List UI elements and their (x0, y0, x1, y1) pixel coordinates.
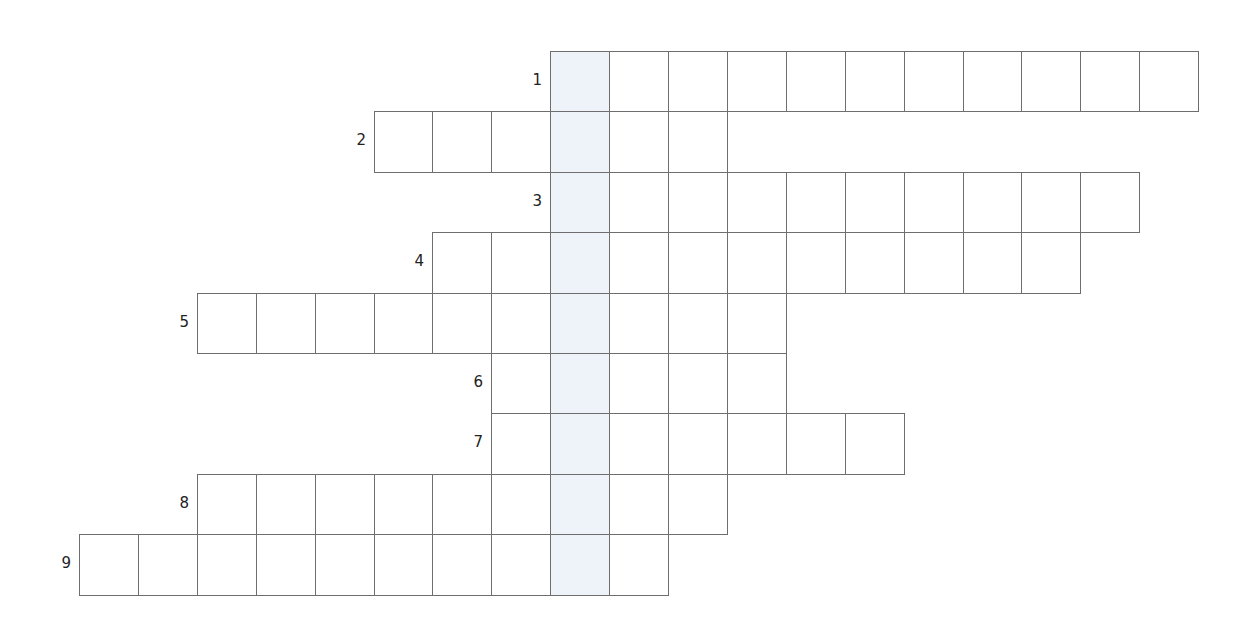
clue-number: 4 (404, 252, 424, 270)
crossword-cell-highlighted[interactable] (550, 111, 610, 173)
crossword-cell[interactable] (668, 172, 728, 233)
crossword-cell[interactable] (491, 474, 551, 535)
crossword-cell[interactable] (138, 534, 198, 596)
crossword-cell[interactable] (786, 232, 846, 294)
crossword-cell[interactable] (374, 474, 433, 535)
crossword-cell[interactable] (727, 51, 787, 112)
crossword-cell[interactable] (432, 474, 492, 535)
crossword-cell[interactable] (904, 172, 964, 233)
crossword-cell[interactable] (197, 474, 257, 535)
crossword-cell-highlighted[interactable] (550, 293, 610, 354)
clue-number: 6 (463, 373, 483, 391)
crossword-cell-highlighted[interactable] (550, 413, 610, 475)
crossword-cell[interactable] (845, 172, 905, 233)
crossword-cell[interactable] (491, 232, 551, 294)
crossword-cell[interactable] (609, 474, 669, 535)
crossword-cell[interactable] (727, 353, 787, 414)
crossword-cell[interactable] (315, 474, 375, 535)
crossword-cell[interactable] (432, 111, 492, 173)
clue-number: 7 (463, 433, 483, 451)
crossword-cell-highlighted[interactable] (550, 474, 610, 535)
crossword-cell-highlighted[interactable] (550, 172, 610, 233)
clue-number: 3 (522, 192, 542, 210)
crossword-cell[interactable] (256, 474, 316, 535)
crossword-cell[interactable] (491, 353, 551, 414)
crossword-cell[interactable] (374, 534, 433, 596)
crossword-cell[interactable] (256, 293, 316, 354)
crossword-cell[interactable] (668, 413, 728, 475)
crossword-cell[interactable] (609, 413, 669, 475)
crossword-cell[interactable] (491, 413, 551, 475)
crossword-cell[interactable] (1080, 51, 1140, 112)
crossword-cell[interactable] (609, 293, 669, 354)
crossword-cell-highlighted[interactable] (550, 232, 610, 294)
crossword-cell[interactable] (845, 232, 905, 294)
crossword-cell-highlighted[interactable] (550, 353, 610, 414)
crossword-cell[interactable] (904, 232, 964, 294)
clue-number: 1 (522, 71, 542, 89)
crossword-cell[interactable] (1080, 172, 1140, 233)
crossword-cell[interactable] (79, 534, 139, 596)
crossword-cell[interactable] (786, 172, 846, 233)
crossword-cell-highlighted[interactable] (550, 534, 610, 596)
crossword-cell[interactable] (609, 51, 669, 112)
crossword-cell[interactable] (668, 111, 728, 173)
crossword-cell[interactable] (668, 474, 728, 535)
crossword-cell[interactable] (315, 534, 375, 596)
crossword-cell[interactable] (904, 51, 964, 112)
crossword-cell[interactable] (1139, 51, 1199, 112)
crossword-cell[interactable] (197, 293, 257, 354)
crossword-cell[interactable] (668, 353, 728, 414)
crossword-cell[interactable] (432, 534, 492, 596)
crossword-cell[interactable] (668, 232, 728, 294)
crossword-cell[interactable] (491, 293, 551, 354)
crossword-cell[interactable] (786, 51, 846, 112)
crossword-cell[interactable] (432, 232, 492, 294)
crossword-cell-highlighted[interactable] (550, 51, 610, 112)
crossword-cell[interactable] (432, 293, 492, 354)
crossword-cell[interactable] (609, 111, 669, 173)
crossword-cell[interactable] (668, 293, 728, 354)
crossword-cell[interactable] (963, 51, 1022, 112)
crossword-cell[interactable] (1021, 172, 1081, 233)
crossword-cell[interactable] (374, 111, 433, 173)
crossword-cell[interactable] (491, 534, 551, 596)
clue-number: 9 (51, 554, 71, 572)
crossword-grid: 123456789 (0, 0, 1250, 630)
crossword-cell[interactable] (609, 353, 669, 414)
crossword-cell[interactable] (609, 534, 669, 596)
crossword-cell[interactable] (491, 111, 551, 173)
crossword-cell[interactable] (963, 232, 1022, 294)
crossword-cell[interactable] (1021, 51, 1081, 112)
crossword-cell[interactable] (727, 413, 787, 475)
crossword-cell[interactable] (197, 534, 257, 596)
crossword-cell[interactable] (727, 232, 787, 294)
crossword-cell[interactable] (609, 172, 669, 233)
crossword-cell[interactable] (256, 534, 316, 596)
crossword-cell[interactable] (609, 232, 669, 294)
clue-number: 2 (346, 131, 366, 149)
clue-number: 8 (169, 494, 189, 512)
crossword-cell[interactable] (315, 293, 375, 354)
crossword-cell[interactable] (727, 293, 787, 354)
crossword-cell[interactable] (1021, 232, 1081, 294)
crossword-cell[interactable] (845, 413, 905, 475)
crossword-cell[interactable] (727, 172, 787, 233)
crossword-cell[interactable] (374, 293, 433, 354)
clue-number: 5 (169, 313, 189, 331)
crossword-cell[interactable] (786, 413, 846, 475)
crossword-cell[interactable] (845, 51, 905, 112)
crossword-cell[interactable] (963, 172, 1022, 233)
crossword-cell[interactable] (668, 51, 728, 112)
